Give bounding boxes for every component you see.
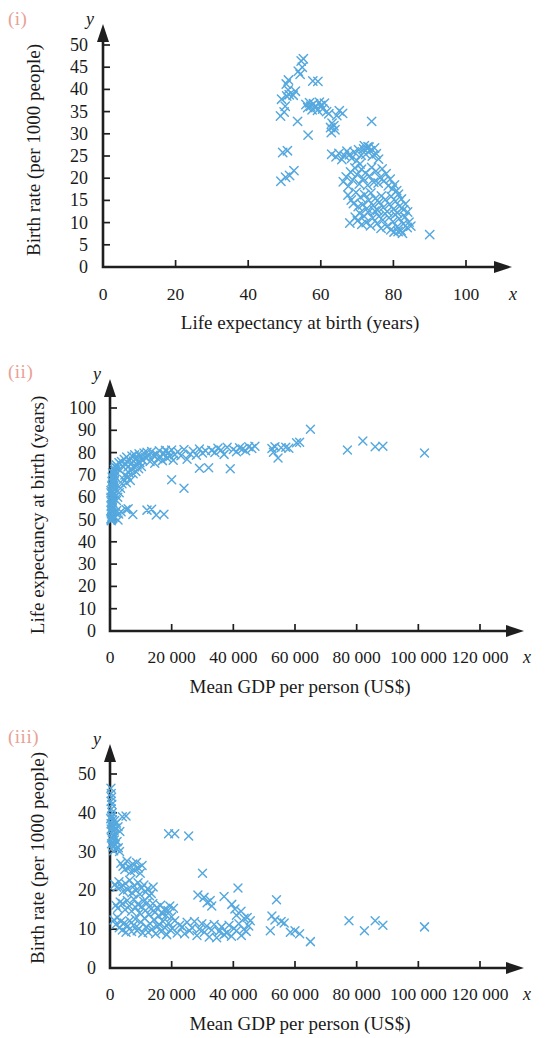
data-point-marker [421, 449, 429, 457]
x-axis-arrow-icon [506, 962, 524, 974]
data-point-marker [386, 175, 394, 183]
x-axis-tick-label: 100 000 [390, 984, 447, 1004]
y-axis-tick-label: 40 [78, 532, 96, 552]
x-axis-symbol: x [508, 284, 517, 304]
data-point-marker [344, 191, 352, 199]
x-axis-tick-label: 80 [385, 284, 403, 304]
data-point-marker [298, 63, 306, 71]
y-axis-title: Life expectancy at birth (years) [27, 396, 49, 634]
data-point-marker [126, 476, 134, 484]
y-axis-tick-label: 50 [78, 510, 96, 530]
y-axis-title: Birth rate (per 1000 people) [27, 752, 49, 964]
x-axis-tick-label: 40 000 [209, 647, 257, 667]
data-point-layer [107, 784, 429, 945]
y-axis-tick-label: 50 [70, 35, 88, 55]
x-axis-title: Life expectancy at birth (years) [181, 312, 419, 334]
data-point-marker [185, 832, 193, 840]
data-point-marker [251, 442, 259, 450]
data-point-marker [226, 465, 234, 473]
x-axis-tick-label: 100 000 [390, 647, 447, 667]
data-point-marker [180, 484, 188, 492]
data-point-marker [306, 425, 314, 433]
data-point-marker [426, 230, 434, 238]
data-point-marker [160, 510, 168, 518]
x-axis-tick-label: 20 000 [148, 647, 196, 667]
y-axis-tick-label: 20 [70, 168, 88, 188]
data-point-marker [228, 900, 236, 908]
data-point-marker [360, 927, 368, 935]
axis-lines [110, 758, 512, 968]
data-point-marker [121, 879, 129, 887]
data-point-marker [325, 110, 333, 118]
data-point-marker [194, 891, 202, 899]
y-axis-tick-label: 10 [70, 213, 88, 233]
x-axis-tick-label: 0 [106, 647, 115, 667]
scatter-plot-i: 02040608010005101520253035404550xyLife e… [0, 0, 547, 345]
y-axis-tick-label: 20 [78, 880, 96, 900]
data-point-marker [274, 454, 282, 462]
x-axis-tick-label: 0 [99, 284, 108, 304]
x-axis-tick-label: 120 000 [452, 984, 509, 1004]
y-axis-tick-label: 40 [70, 79, 88, 99]
data-point-marker [205, 933, 213, 941]
data-point-marker [273, 896, 281, 904]
x-axis-tick-label: 20 000 [148, 984, 196, 1004]
y-axis-tick-label: 45 [70, 57, 88, 77]
data-point-marker [345, 917, 353, 925]
data-point-marker [377, 224, 385, 232]
data-point-marker [220, 893, 228, 901]
x-axis-tick-label: 0 [106, 984, 115, 1004]
y-axis-tick-label: 0 [79, 257, 88, 277]
y-axis-tick-label: 80 [78, 443, 96, 463]
scatter-plot-iii: 020 00040 00060 00080 000100 000120 0000… [0, 710, 547, 1038]
data-point-marker [306, 938, 314, 946]
data-point-marker [234, 884, 242, 892]
y-axis-arrow-icon [104, 744, 116, 762]
data-point-marker [359, 437, 367, 445]
x-axis-symbol: x [522, 647, 531, 667]
y-axis-tick-label: 60 [78, 487, 96, 507]
y-axis-tick-label: 50 [78, 764, 96, 784]
x-axis-arrow-icon [506, 625, 524, 637]
data-point-marker [344, 182, 352, 190]
data-point-marker [266, 927, 274, 935]
data-point-marker [371, 917, 379, 925]
y-axis-tick-label: 30 [78, 554, 96, 574]
y-axis-arrow-icon [104, 379, 116, 397]
data-point-marker [314, 77, 322, 85]
y-axis-tick-label: 90 [78, 420, 96, 440]
figure-i: (i) 02040608010005101520253035404550xyLi… [0, 0, 547, 345]
data-point-marker [152, 511, 160, 519]
x-axis-arrow-icon [494, 261, 512, 273]
x-axis-tick-label: 100 [453, 284, 480, 304]
x-axis-tick-label: 120 000 [452, 647, 509, 667]
data-point-marker [293, 117, 301, 125]
data-point-marker [290, 166, 298, 174]
data-point-marker [304, 131, 312, 139]
data-point-layer [276, 55, 434, 239]
x-axis-symbol: x [522, 984, 531, 1004]
y-axis-arrow-icon [97, 24, 109, 42]
x-axis-tick-label: 40 000 [209, 984, 257, 1004]
y-axis-tick-label: 0 [87, 621, 96, 641]
data-point-marker [129, 511, 137, 519]
x-axis-tick-label: 80 000 [333, 647, 381, 667]
data-point-marker [343, 446, 351, 454]
data-point-marker [284, 76, 292, 84]
y-axis-tick-label: 100 [69, 398, 96, 418]
data-point-marker [171, 830, 179, 838]
data-point-marker [421, 923, 429, 931]
x-axis-tick-label: 40 [239, 284, 257, 304]
x-axis-tick-label: 20 [167, 284, 185, 304]
data-point-marker [168, 476, 176, 484]
data-point-marker [220, 450, 228, 458]
data-point-marker [296, 930, 304, 938]
data-point-marker [361, 190, 369, 198]
data-point-marker [299, 55, 307, 63]
data-point-marker [195, 464, 203, 472]
y-axis-tick-label: 10 [78, 919, 96, 939]
data-point-marker [356, 193, 364, 201]
data-point-marker [367, 189, 375, 197]
data-point-marker [199, 869, 207, 877]
data-point-layer [107, 425, 429, 524]
